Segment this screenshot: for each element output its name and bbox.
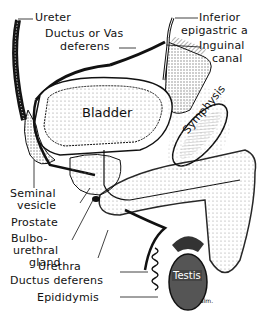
label-inguinal-line1: Inguinal <box>199 40 245 52</box>
ureter-shape <box>15 20 24 120</box>
label-testis: Testis <box>172 270 202 281</box>
penis-shape <box>99 150 255 273</box>
label-prostate: Prostate <box>11 217 58 229</box>
label-ductus-vas-line1: Ductus or Vas <box>45 28 124 40</box>
label-urethra-text: Urethra <box>38 261 81 273</box>
label-inferior-epigastric-line2: epigastric a <box>181 25 248 37</box>
label-ductus-vas-line2: deferens <box>60 41 110 53</box>
label-bladder: Bladder <box>82 105 132 120</box>
label-inguinal-line2: canal <box>212 53 243 65</box>
ductus-deferens-lower-shape <box>125 210 165 270</box>
artist-signature: alm. <box>200 297 213 304</box>
label-epididymis: Epididymis <box>37 292 99 304</box>
epididymis-shape <box>152 248 158 290</box>
label-ductus-deferens: Ductus deferens <box>10 275 103 287</box>
label-inferior-epigastric-line1: Inferior <box>199 12 240 24</box>
label-seminal-line2: vesicle <box>17 200 56 212</box>
label-ureter: Ureter <box>35 12 71 24</box>
bulbourethral-gland-shape <box>92 196 100 202</box>
